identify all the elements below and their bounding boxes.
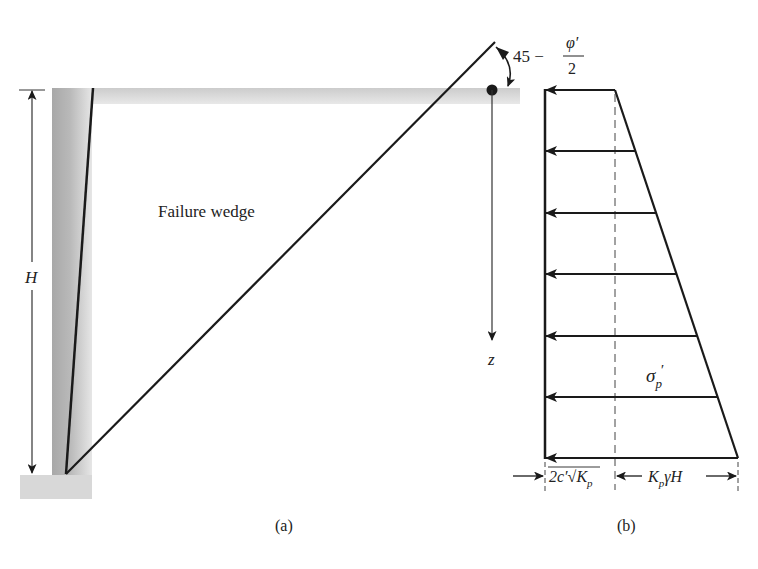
retaining-wall — [52, 88, 92, 478]
caption-b: (b) — [617, 517, 636, 535]
angle-numerator: φ′ — [566, 34, 579, 52]
panel-a: H Failure wedge z 45 − φ′ 2 (a) — [19, 34, 584, 535]
panel-b: σp′ 2c′√Kp KpγH (b) — [513, 89, 738, 535]
depth-label: z — [487, 350, 495, 369]
angle-prefix: 45 − — [513, 47, 544, 66]
depth-axis: z — [487, 85, 498, 370]
height-dimension: H — [19, 90, 45, 473]
stress-label: σp′ — [646, 362, 664, 391]
angle-denominator: 2 — [568, 60, 576, 77]
height-label: H — [24, 268, 39, 287]
pressure-arrows — [546, 90, 738, 458]
base-dimension: 2c′√Kp KpγH — [513, 462, 738, 492]
caption-a: (a) — [275, 517, 293, 535]
failure-wedge-label: Failure wedge — [158, 202, 255, 221]
ground-surface — [52, 88, 520, 104]
passive-pressure-figure: H Failure wedge z 45 − φ′ 2 (a) — [0, 0, 758, 569]
weight-width-label: KpγH — [647, 468, 683, 489]
wall-footing — [20, 475, 92, 499]
cohesion-width-label: 2c′√Kp — [549, 468, 593, 489]
angle-annotation: 45 − φ′ 2 — [496, 34, 584, 86]
failure-plane-line — [66, 42, 495, 474]
